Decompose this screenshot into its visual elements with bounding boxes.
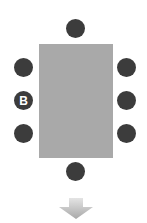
seat-bottom	[66, 162, 85, 181]
seat-left-2-b: B	[14, 91, 33, 110]
seat-top	[66, 19, 85, 38]
seat-right-2	[117, 91, 136, 110]
seat-left-1	[14, 58, 33, 77]
seat-left-3	[14, 124, 33, 143]
seat-right-3	[117, 124, 136, 143]
arrow-down-icon	[58, 198, 94, 220]
seat-right-1	[117, 58, 136, 77]
table-rectangle	[39, 44, 113, 158]
